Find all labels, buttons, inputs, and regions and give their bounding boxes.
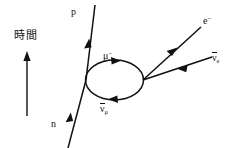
time-axis-arrow (23, 51, 30, 116)
muon-antineutrino-label: νμ (100, 103, 108, 115)
neutron-line (66, 80, 86, 148)
electron-label: e− (203, 16, 211, 26)
feynman-diagram-figure: 時間 p n μ− νμ e− νe (0, 0, 247, 148)
electron-antineutrino-subscript: e (217, 57, 220, 64)
time-axis-label: 時間 (14, 30, 37, 41)
electron-charge: − (207, 15, 211, 23)
electron-antineutrino-label: νe (212, 52, 219, 64)
electron-line (143, 27, 201, 80)
muon-charge: − (108, 50, 112, 58)
proton-label: p (71, 7, 76, 17)
particle-loop (86, 57, 144, 103)
muon-label: μ− (103, 51, 112, 61)
neutron-label: n (51, 119, 56, 129)
electron-antineutrino-line (143, 57, 212, 80)
muon-antineutrino-subscript: μ (105, 108, 109, 115)
